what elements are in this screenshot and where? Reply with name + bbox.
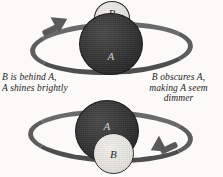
caption-left-line-1: B is behind A, [2,72,88,83]
sphere-a-bottom-label: A [76,121,138,132]
sphere-a-top: A [79,13,143,75]
sphere-a-top-label: A [80,51,142,62]
caption-left-line-2: A shines brightly [2,83,88,94]
sphere-b-bottom-label: B [94,149,133,160]
caption-right-line-3: dimmer [136,93,221,104]
caption-left: B is behind A, A shines brightly [2,72,88,93]
sphere-texture [80,14,142,74]
caption-right-line-1: B obscures A, [136,72,221,83]
figure-canvas: B A A B B is behind A, A shines brightly… [0,0,223,177]
caption-right: B obscures A, making A seem dimmer [136,72,221,104]
sphere-b-bottom: B [93,133,134,174]
caption-right-line-2: making A seem [136,83,221,94]
